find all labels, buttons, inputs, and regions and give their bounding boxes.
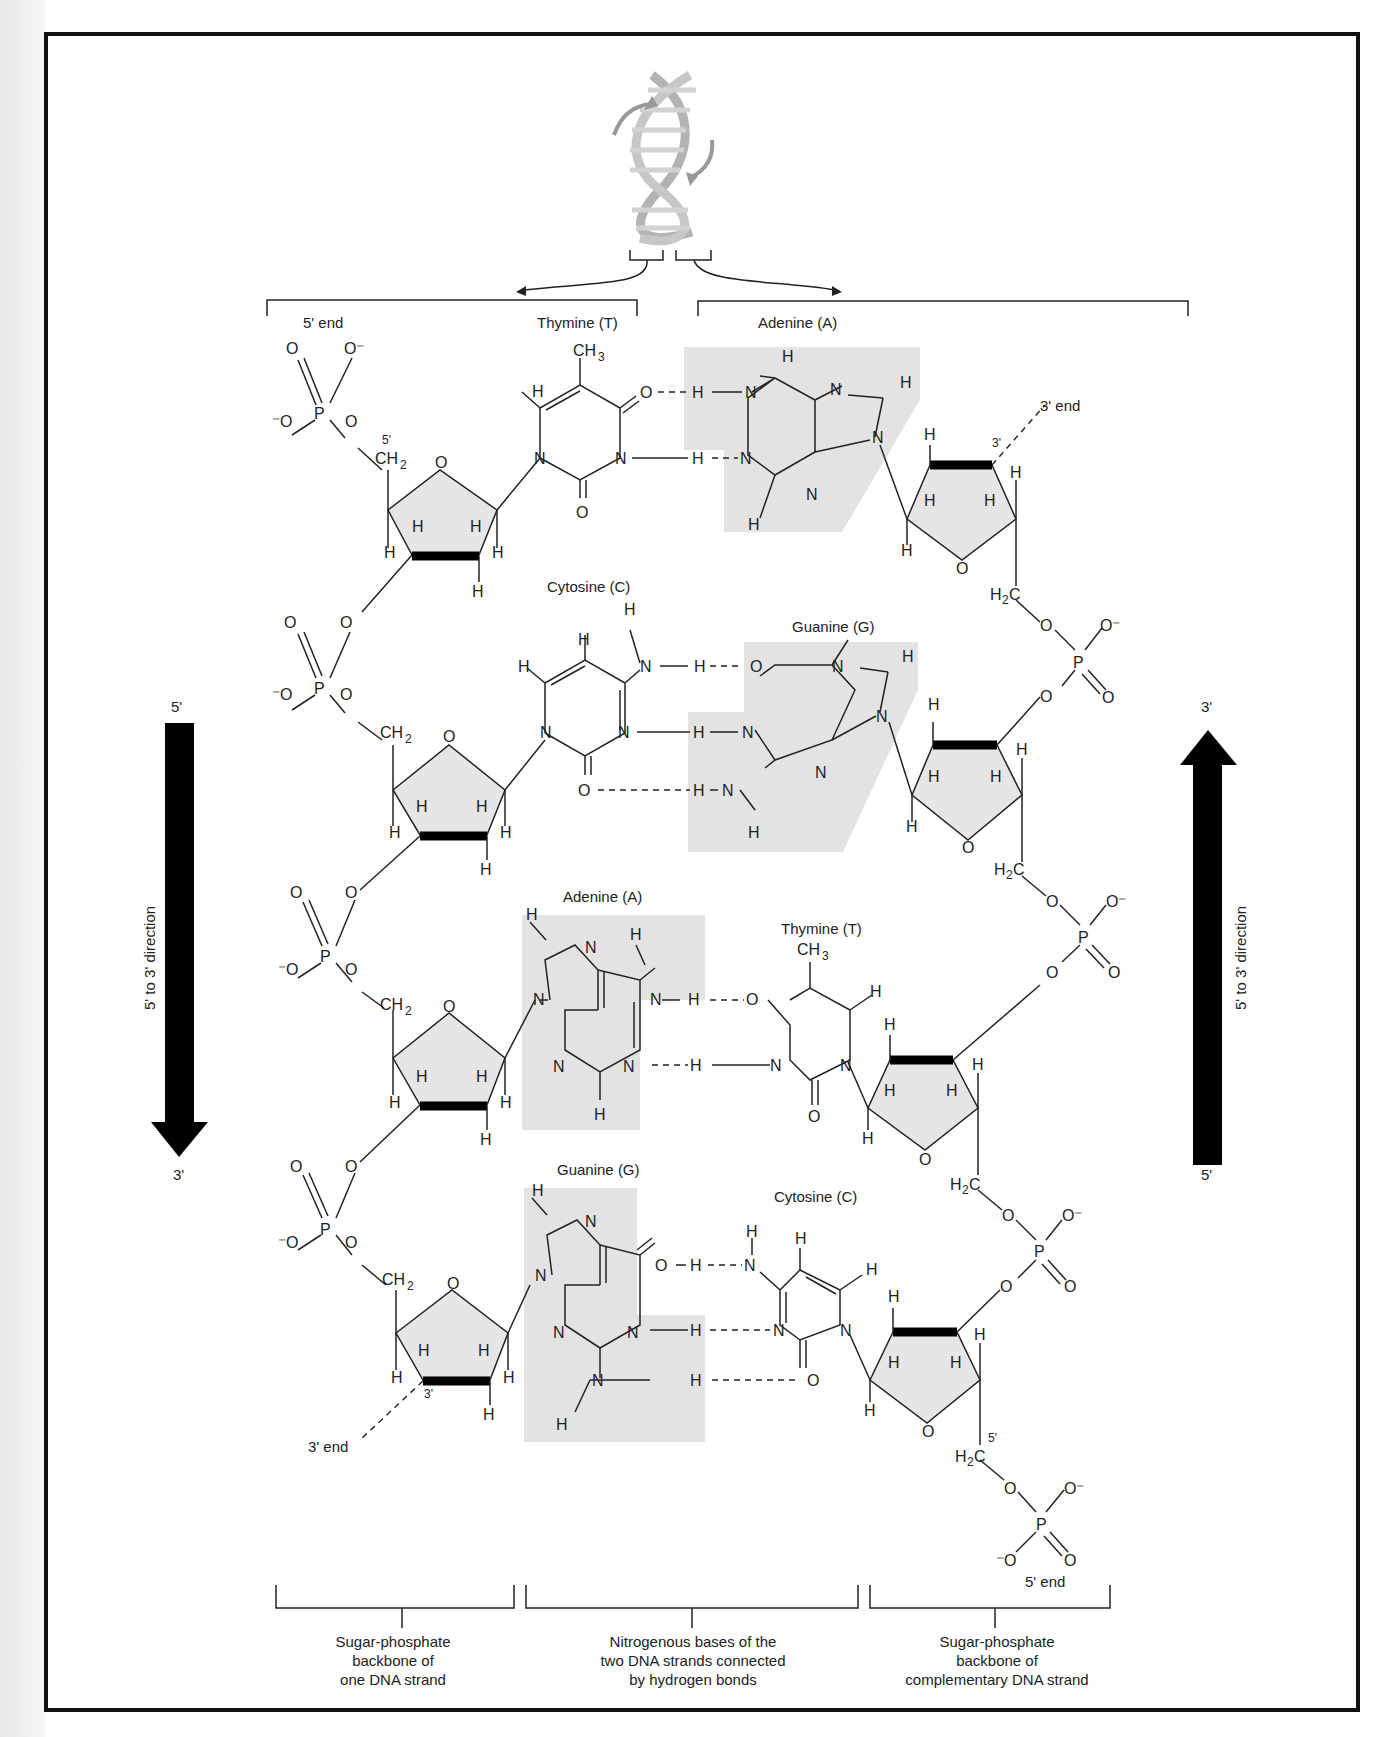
helix-bracket-right [676, 250, 842, 296]
svg-text:2: 2 [967, 1455, 974, 1469]
label-5-end-top: 5' end [303, 314, 343, 331]
svg-text:H: H [864, 1402, 876, 1419]
svg-text:H: H [526, 906, 538, 923]
svg-text:H: H [866, 1261, 878, 1278]
svg-text:H: H [888, 1288, 900, 1305]
svg-text:3': 3' [1201, 698, 1212, 715]
svg-text:H: H [500, 1094, 512, 1111]
svg-text:H: H [974, 1326, 986, 1343]
svg-text:H: H [972, 1056, 984, 1073]
right-arrow-label: 5' to 3' direction [1232, 906, 1249, 1010]
svg-text:H: H [690, 1057, 702, 1074]
sugar-hydrogen-labels: HH HH H HH HH H HH HH H HH HH H HH HH HO… [384, 426, 1028, 1440]
left-sugar-1 [388, 458, 540, 582]
left-phosphate-backbone [292, 358, 420, 1285]
svg-text:CH: CH [797, 941, 820, 958]
right-direction-arrow: 3' 5' 5' to 3' direction [1180, 698, 1249, 1183]
svg-text:N: N [540, 724, 552, 741]
dna-structure-diagram: 5' end Thymine (T) Adenine (A) 3' end Cy… [0, 0, 1391, 1737]
svg-text:O: O [340, 686, 352, 703]
svg-text:N: N [744, 1257, 756, 1274]
svg-text:N: N [627, 1324, 639, 1341]
svg-text:H: H [946, 1082, 958, 1099]
svg-text:O: O [807, 1372, 819, 1389]
svg-text:H: H [483, 1406, 495, 1423]
svg-text:N: N [722, 782, 734, 799]
bottom-bracket-left [276, 1585, 514, 1628]
svg-text:N: N [745, 384, 757, 401]
caption-middle-line-2: two DNA strands connected [600, 1652, 785, 1669]
svg-text:H: H [412, 518, 424, 535]
svg-text:O: O [1046, 893, 1058, 910]
label-guanine-1: Guanine (G) [792, 618, 875, 635]
svg-text:H: H [928, 696, 940, 713]
svg-text:N: N [650, 991, 662, 1008]
svg-text:O: O [919, 1151, 931, 1168]
svg-text:2: 2 [407, 1279, 414, 1293]
svg-text:O: O [1064, 1278, 1076, 1295]
svg-text:H: H [476, 798, 488, 815]
svg-text:O: O [1040, 688, 1052, 705]
svg-text:N: N [832, 658, 844, 675]
svg-text:H: H [1010, 464, 1022, 481]
svg-text:C: C [974, 1448, 986, 1465]
svg-text:O: O [576, 504, 588, 521]
svg-text:H: H [578, 631, 590, 648]
svg-text:O: O [345, 1158, 357, 1175]
svg-text:3: 3 [822, 949, 829, 963]
svg-text:O: O [640, 384, 652, 401]
svg-text:O⁻: O⁻ [1106, 893, 1126, 910]
svg-text:H: H [688, 991, 700, 1008]
svg-text:O: O [1040, 617, 1052, 634]
svg-text:O: O [1064, 1552, 1076, 1569]
svg-text:O: O [286, 340, 298, 357]
svg-text:H: H [870, 983, 882, 1000]
svg-text:O⁻: O⁻ [344, 340, 364, 357]
svg-text:N: N [806, 486, 818, 503]
svg-text:P: P [314, 405, 325, 422]
left-sugar-4 [360, 1285, 530, 1440]
bottom-bracket-right [870, 1585, 1110, 1628]
svg-text:N: N [535, 1267, 547, 1284]
svg-text:3': 3' [173, 1166, 184, 1183]
svg-text:H: H [1016, 741, 1028, 758]
caption-left-line-3: one DNA strand [340, 1671, 446, 1688]
svg-text:5': 5' [1201, 1166, 1212, 1183]
svg-text:O: O [443, 998, 455, 1015]
svg-text:CH: CH [382, 1271, 405, 1288]
svg-text:O: O [345, 884, 357, 901]
svg-text:H: H [906, 818, 918, 835]
svg-text:N: N [618, 724, 630, 741]
svg-text:H: H [884, 1082, 896, 1099]
svg-text:H: H [492, 544, 504, 561]
svg-text:2: 2 [1006, 868, 1013, 882]
caption-middle-line-1: Nitrogenous bases of the [610, 1633, 777, 1650]
dna-helix-icon [614, 75, 712, 241]
svg-text:H: H [500, 824, 512, 841]
svg-text:O: O [1046, 964, 1058, 981]
svg-text:H: H [990, 586, 1002, 603]
svg-text:H: H [384, 544, 396, 561]
svg-text:P: P [314, 680, 325, 697]
svg-text:5': 5' [382, 433, 391, 447]
svg-text:2: 2 [405, 1004, 412, 1018]
svg-text:CH: CH [380, 724, 403, 741]
svg-text:H: H [532, 383, 544, 400]
svg-text:5': 5' [171, 698, 182, 715]
svg-text:H: H [690, 1372, 702, 1389]
svg-text:N: N [840, 1057, 852, 1074]
svg-text:N: N [742, 724, 754, 741]
adenine-2-shade [522, 915, 705, 1130]
svg-text:N: N [553, 1058, 565, 1075]
svg-text:⁻O: ⁻O [278, 1234, 298, 1251]
svg-text:P: P [1078, 929, 1089, 946]
svg-text:H: H [480, 861, 492, 878]
right-phosphate-atoms: H2C O O⁻ P O O H2C O O⁻ P O O H2C O O⁻ P… [950, 436, 1126, 1569]
svg-text:H: H [888, 1354, 900, 1371]
svg-text:H: H [990, 768, 1002, 785]
right-sugar-2 [889, 697, 1040, 862]
svg-text:N: N [773, 1322, 785, 1339]
svg-text:H: H [900, 374, 912, 391]
caption-right-line-3: complementary DNA strand [905, 1671, 1088, 1688]
svg-text:H: H [556, 1416, 568, 1433]
